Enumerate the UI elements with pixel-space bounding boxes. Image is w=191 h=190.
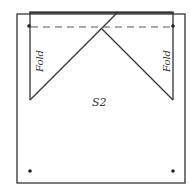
center-label: S2 (92, 96, 107, 109)
dot-bottom-left (28, 169, 32, 173)
right-fold-label: Fold (161, 50, 172, 73)
dot-top-right (171, 24, 175, 28)
dot-bottom-right (171, 169, 175, 173)
flap-rect (30, 12, 173, 13)
left-fold-label: Fold (34, 50, 45, 73)
dot-top-left (27, 24, 31, 28)
fold-diagram: Fold Fold S2 (0, 0, 191, 190)
